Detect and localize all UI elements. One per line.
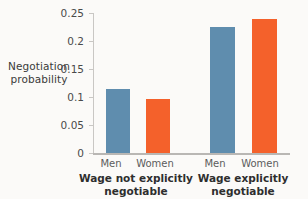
bar-group1-men bbox=[106, 89, 130, 153]
y-tick-label-3: 0.15 bbox=[61, 63, 84, 75]
bar-group2-men bbox=[210, 27, 235, 153]
bar-group1-women bbox=[146, 99, 170, 153]
y-tick-5: 0.25 bbox=[89, 13, 93, 14]
group-label-2: Wage explicitly negotiable bbox=[184, 172, 302, 197]
category-label-group1-women: Women bbox=[124, 158, 186, 169]
group-label-1: Wage not explicitly negotiable bbox=[76, 172, 196, 197]
y-tick-label-4: 0.2 bbox=[67, 35, 84, 47]
y-tick-label-5: 0.25 bbox=[61, 7, 84, 19]
y-tick-label-2: 0.1 bbox=[67, 91, 84, 103]
plot-area: 0 0.05 0.1 0.15 0.2 0.25 bbox=[93, 13, 297, 153]
group-label-2-line-1: Wage explicitly bbox=[184, 172, 302, 185]
bar-group2-women bbox=[252, 19, 277, 153]
y-tick-3: 0.15 bbox=[89, 69, 93, 70]
group-label-2-line-2: negotiable bbox=[184, 185, 302, 198]
y-axis-line bbox=[93, 13, 94, 154]
y-tick-1: 0.05 bbox=[89, 125, 93, 126]
y-tick-label-0: 0 bbox=[77, 147, 84, 159]
group-label-1-line-2: negotiable bbox=[76, 185, 196, 198]
category-label-group2-women: Women bbox=[229, 158, 291, 169]
y-tick-label-1: 0.05 bbox=[61, 119, 84, 131]
y-tick-0: 0 bbox=[89, 153, 93, 154]
group-label-1-line-1: Wage not explicitly bbox=[76, 172, 196, 185]
y-tick-4: 0.2 bbox=[89, 41, 93, 42]
x-axis-line bbox=[93, 153, 290, 155]
y-tick-2: 0.1 bbox=[89, 97, 93, 98]
bar-chart-figure: Negotiation probability 0 0.05 0.1 0.15 … bbox=[0, 0, 308, 199]
